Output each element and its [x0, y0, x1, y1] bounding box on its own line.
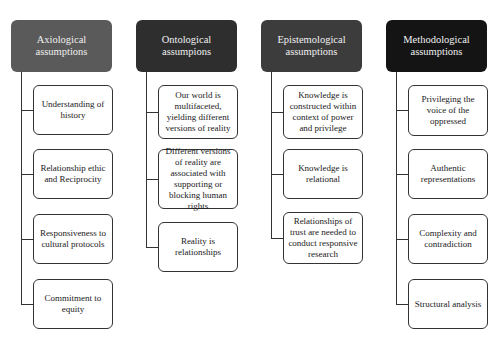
column-epistemological: Epistemological assumptions Knowledge is… [261, 0, 371, 345]
header-methodological: Methodological assumptions [386, 20, 487, 72]
connector-branch [271, 174, 283, 175]
item-box: Knowledge is relational [283, 149, 363, 199]
connector-branch [271, 112, 283, 113]
column-axiological: Axiological assumptions Understanding of… [11, 0, 121, 345]
header-ontological: Ontological assumpions [136, 20, 237, 72]
connector-branch [271, 238, 283, 239]
connector-spine [271, 72, 272, 239]
item-box: Our world is multifaceted, yielding diff… [158, 85, 238, 139]
item-box: Different versions of reality are associ… [158, 149, 238, 209]
header-epistemological: Epistemological assumptions [261, 20, 362, 72]
connector-branch [21, 110, 33, 111]
connector-spine [396, 72, 397, 304]
item-box: Privileging the voice of the oppressed [408, 85, 488, 136]
item-box: Reality is relationships [158, 222, 238, 272]
column-methodological: Methodological assumptions Privileging t… [386, 0, 496, 345]
item-box: Complexity and contradiction [408, 214, 488, 264]
item-box: Relationship ethic and Reciprocity [33, 149, 113, 199]
item-box: Understanding of history [33, 85, 113, 135]
connector-branch [21, 239, 33, 240]
item-box: Knowledge is constructed within context … [283, 85, 363, 139]
connector-branch [396, 239, 408, 240]
connector-branch [146, 112, 158, 113]
item-box: Authentic representations [408, 149, 488, 199]
item-box: Structural analysis [408, 279, 488, 329]
item-box: Relationships of trust are needed to con… [283, 212, 363, 264]
connector-branch [146, 247, 158, 248]
connector-branch [21, 174, 33, 175]
connector-branch [21, 304, 33, 305]
item-box: Commitment to equity [33, 279, 113, 329]
connector-branch [396, 110, 408, 111]
connector-spine [146, 72, 147, 247]
connector-branch [146, 179, 158, 180]
connector-spine [21, 72, 22, 304]
header-axiological: Axiological assumptions [11, 20, 112, 72]
connector-branch [396, 304, 408, 305]
column-ontological: Ontological assumpions Our world is mult… [136, 0, 246, 345]
item-box: Responsiveness to cultural protocols [33, 214, 113, 264]
connector-branch [396, 174, 408, 175]
